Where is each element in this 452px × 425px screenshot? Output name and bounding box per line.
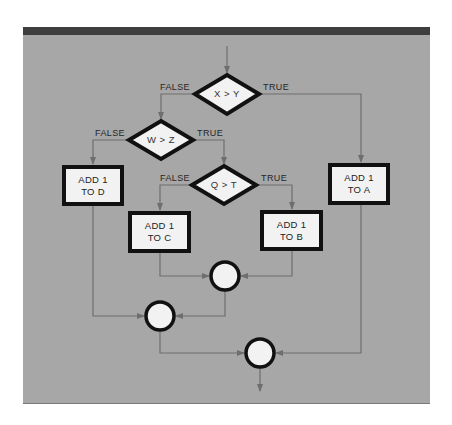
w-z-false-label: FALSE [95,128,125,138]
q-t-true-connector [257,185,292,209]
process-a-line2: TO A [344,184,373,196]
process-add-1-to-b: ADD 1 TO B [260,210,323,251]
q-t-false-connector [160,185,191,210]
q-t-true-label: TRUE [261,173,287,183]
process-d-line1: ADD 1 [78,174,107,186]
junction-circle-3 [246,339,274,367]
x-y-true-label: TRUE [263,82,289,92]
q-t-false-label: FALSE [160,173,190,183]
junction-circle-1 [211,262,239,290]
w-z-true-label: TRUE [197,128,223,138]
x-y-true-connector [260,94,361,162]
process-add-1-to-d: ADD 1 TO D [62,165,124,206]
join1-to-join2-connector [176,291,225,316]
join2-to-join3-connector [160,331,244,353]
process-add-1-to-c: ADD 1 TO C [128,211,191,253]
c-to-join1-connector [160,252,209,276]
process-a-line1: ADD 1 [344,172,373,184]
process-add-1-to-a: ADD 1 TO A [328,163,390,205]
x-y-false-connector [161,94,194,119]
decision-x-gt-y-label: X > Y [202,88,252,99]
w-z-false-connector [93,140,128,164]
w-z-true-connector [194,140,224,164]
process-d-line2: TO D [78,186,107,198]
b-to-join1-connector [241,250,292,276]
process-c-line2: TO C [145,232,174,244]
flowchart-connectors [0,0,452,425]
process-c-line1: ADD 1 [145,220,174,232]
x-y-false-label: FALSE [160,82,190,92]
process-b-line2: TO B [277,231,306,243]
junction-circle-2 [146,302,174,330]
process-b-line1: ADD 1 [277,219,306,231]
decision-w-gt-z-label: W > Z [136,134,186,145]
decision-q-gt-t-label: Q > T [199,179,249,190]
